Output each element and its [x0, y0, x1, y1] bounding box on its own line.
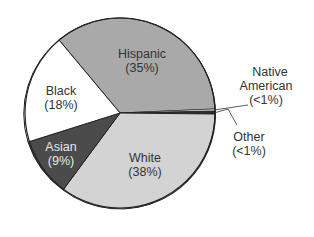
- leader-other: [214, 109, 237, 125]
- label-black-name: Black: [46, 84, 77, 98]
- leader-native-american: [214, 105, 248, 110]
- label-native-name1: Native: [252, 65, 287, 79]
- label-hispanic-pct: (35%): [125, 61, 158, 75]
- label-other-pct: (<1%): [232, 144, 266, 158]
- label-other-name: Other: [233, 130, 264, 144]
- label-hispanic-name: Hispanic: [118, 47, 166, 61]
- label-asian-pct: (9%): [48, 154, 74, 168]
- label-white-name: White: [129, 151, 161, 165]
- label-native-pct: (<1%): [249, 93, 283, 107]
- pie-chart: Hispanic (35%) Black (18%) Asian (9%) Wh…: [0, 0, 314, 237]
- label-black-pct: (18%): [44, 98, 77, 112]
- label-asian-name: Asian: [45, 140, 76, 154]
- label-white-pct: (38%): [128, 165, 161, 179]
- label-native-name2: American: [240, 79, 293, 93]
